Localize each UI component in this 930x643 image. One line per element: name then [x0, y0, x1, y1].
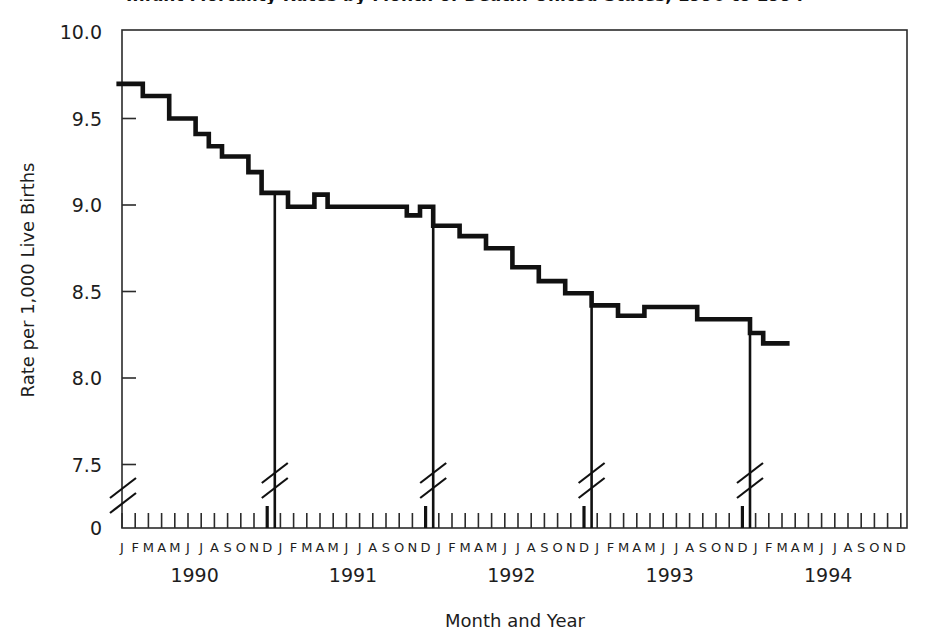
x-month-label: O — [394, 540, 404, 555]
x-month-label: N — [724, 540, 734, 555]
x-axis-title: Month and Year — [445, 610, 585, 631]
x-month-label: M — [618, 540, 629, 555]
x-month-label: A — [210, 540, 219, 555]
x-month-label: D — [896, 540, 906, 555]
x-month-label: M — [486, 540, 497, 555]
x-month-label: O — [236, 540, 246, 555]
x-month-label: M — [169, 540, 180, 555]
plot-frame — [122, 30, 907, 528]
y-tick-label-zero: 0 — [90, 517, 102, 539]
y-tick-label: 7.5 — [72, 454, 102, 476]
x-month-label: J — [594, 540, 599, 555]
y-tick-label: 9.0 — [72, 194, 102, 216]
x-month-label: J — [343, 540, 348, 555]
x-axis-ticks — [122, 506, 901, 528]
x-month-label: F — [607, 540, 614, 555]
x-axis-year-labels: 19901991199219931994 — [170, 564, 852, 586]
x-month-label: A — [527, 540, 536, 555]
x-month-label: J — [277, 540, 282, 555]
y-tick-label: 10.0 — [60, 21, 102, 43]
x-month-label: D — [579, 540, 589, 555]
x-month-label: N — [566, 540, 576, 555]
x-year-label: 1994 — [804, 564, 852, 586]
x-axis-month-labels: JFMAMJJASONDJFMAMJJASONDJFMAMJJASONDJFMA… — [119, 540, 906, 555]
y-tick-label: 9.5 — [72, 108, 102, 130]
y-tick-label: 8.5 — [72, 281, 102, 303]
x-year-label: 1993 — [646, 564, 694, 586]
x-month-label: S — [382, 540, 390, 555]
x-month-label: N — [408, 540, 418, 555]
chart-canvas: 10.09.59.08.58.07.50 Rate per 1,000 Live… — [0, 0, 930, 643]
x-month-label: M — [460, 540, 471, 555]
x-month-label: J — [753, 540, 758, 555]
x-month-label: N — [249, 540, 259, 555]
x-month-label: J — [119, 540, 124, 555]
x-month-label: A — [157, 540, 166, 555]
x-month-label: M — [143, 540, 154, 555]
x-month-label: J — [819, 540, 824, 555]
x-month-label: F — [448, 540, 455, 555]
x-month-label: O — [869, 540, 879, 555]
x-month-label: J — [436, 540, 441, 555]
x-year-label: 1991 — [329, 564, 377, 586]
y-tick-label: 8.0 — [72, 367, 102, 389]
x-month-label: O — [552, 540, 562, 555]
x-month-label: D — [421, 540, 431, 555]
x-month-label: D — [737, 540, 747, 555]
x-month-label: A — [791, 540, 800, 555]
x-month-label: M — [803, 540, 814, 555]
x-month-label: M — [644, 540, 655, 555]
x-month-label: J — [660, 540, 665, 555]
x-month-label: M — [776, 540, 787, 555]
x-month-label: A — [368, 540, 377, 555]
x-month-label: D — [262, 540, 272, 555]
year-divider-rules — [262, 195, 763, 528]
x-month-label: F — [290, 540, 297, 555]
y-axis: 10.09.59.08.58.07.50 — [60, 21, 136, 539]
x-month-label: J — [673, 540, 678, 555]
x-month-label: M — [328, 540, 339, 555]
infant-mortality-figure: Infant Mortality Rates by Month of Death… — [0, 0, 930, 643]
x-year-label: 1990 — [170, 564, 218, 586]
x-month-label: A — [316, 540, 325, 555]
x-month-label: J — [198, 540, 203, 555]
x-month-label: M — [301, 540, 312, 555]
x-month-label: F — [131, 540, 138, 555]
x-year-label: 1992 — [487, 564, 535, 586]
y-axis-break — [110, 478, 136, 513]
x-month-label: A — [844, 540, 853, 555]
x-month-label: S — [540, 540, 548, 555]
x-month-label: A — [474, 540, 483, 555]
x-month-label: S — [699, 540, 707, 555]
chart-title: Infant Mortality Rates by Month of Death… — [0, 0, 930, 4]
y-axis-title: Rate per 1,000 Live Births — [17, 163, 38, 398]
x-month-label: J — [357, 540, 362, 555]
infant-mortality-line — [116, 84, 789, 344]
x-month-label: J — [502, 540, 507, 555]
x-month-label: A — [632, 540, 641, 555]
x-month-label: S — [223, 540, 231, 555]
x-month-label: S — [857, 540, 865, 555]
x-month-label: N — [883, 540, 893, 555]
x-month-label: J — [515, 540, 520, 555]
x-month-label: A — [685, 540, 694, 555]
x-month-label: F — [765, 540, 772, 555]
x-month-label: J — [185, 540, 190, 555]
x-month-label: O — [711, 540, 721, 555]
x-month-label: J — [832, 540, 837, 555]
